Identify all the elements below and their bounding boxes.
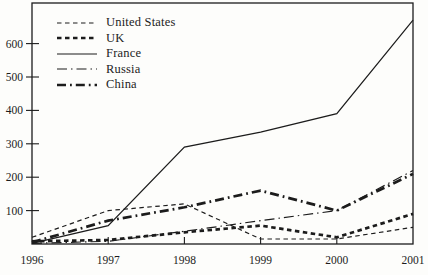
legend-item: France xyxy=(56,46,176,62)
legend-line-sample-icon xyxy=(56,79,98,91)
y-axis-label: 400 xyxy=(6,104,24,116)
x-axis-label: 1998 xyxy=(173,254,196,266)
legend-line-sample-icon xyxy=(56,63,98,75)
legend-item-label: France xyxy=(106,46,141,61)
legend-line-sample-icon xyxy=(56,17,98,29)
x-axis-label: 1997 xyxy=(97,254,120,266)
legend-item-label: UK xyxy=(106,31,124,46)
chart-legend: United StatesUKFranceRussiaChina xyxy=(56,15,176,93)
x-axis-label: 1996 xyxy=(21,254,44,266)
y-axis-label: 300 xyxy=(6,138,24,150)
legend-item: UK xyxy=(56,31,176,47)
y-axis-label: 100 xyxy=(6,205,24,217)
legend-item: United States xyxy=(56,15,176,31)
y-axis-label: 200 xyxy=(6,171,24,183)
series-line-china xyxy=(32,174,413,242)
line-chart-figure: 1002003004005006001996199719981999200020… xyxy=(0,0,428,275)
x-axis-label: 2000 xyxy=(325,254,348,266)
legend-item-label: United States xyxy=(106,15,176,30)
legend-item: China xyxy=(56,77,176,93)
legend-item-label: China xyxy=(106,77,137,92)
x-axis-label: 1999 xyxy=(249,254,272,266)
series-line-united-states xyxy=(32,204,413,239)
series-line-russia xyxy=(32,171,413,244)
y-axis-label: 500 xyxy=(6,71,24,83)
legend-line-sample-icon xyxy=(56,48,98,60)
legend-item-label: Russia xyxy=(106,62,141,77)
legend-line-sample-icon xyxy=(56,32,98,44)
series-line-uk xyxy=(32,214,413,241)
legend-item: Russia xyxy=(56,62,176,78)
y-axis-label: 600 xyxy=(6,38,24,50)
x-axis-label: 2001 xyxy=(402,254,425,266)
